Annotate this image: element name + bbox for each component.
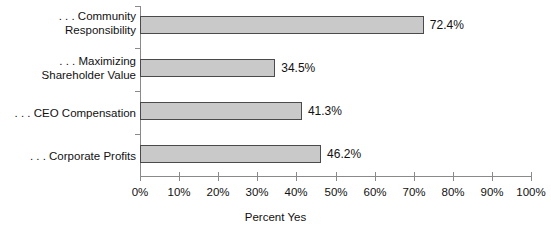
bar-chart: . . . Community Responsibility . . . Max… (0, 0, 551, 233)
y-axis-tick (135, 6, 141, 7)
category-label-community-responsibility: . . . Community Responsibility (0, 10, 136, 37)
x-axis-tick (414, 172, 415, 181)
x-axis-label-0: 0% (118, 186, 162, 198)
bar-value-corporate-profits: 46.2% (327, 145, 361, 163)
x-axis-label-40: 40% (274, 186, 318, 198)
x-axis-label-90: 90% (470, 186, 514, 198)
y-axis-tick (135, 48, 141, 49)
x-axis-tick (257, 172, 258, 181)
bar-value-ceo-compensation: 41.3% (308, 102, 342, 120)
x-axis-tick (336, 172, 337, 181)
x-axis-tick (453, 172, 454, 181)
x-axis-label-30: 30% (235, 186, 279, 198)
y-axis-tick (135, 134, 141, 135)
x-axis-tick (492, 172, 493, 181)
bar-maximizing-shareholder-value (140, 59, 275, 77)
x-axis-tick (140, 172, 141, 181)
x-axis-tick (296, 172, 297, 181)
category-axis-labels: . . . Community Responsibility . . . Max… (0, 0, 136, 176)
bar-value-community-responsibility: 72.4% (430, 16, 464, 34)
x-axis-label-10: 10% (157, 186, 201, 198)
x-axis-label-100: 100% (509, 186, 551, 198)
y-axis-tick (135, 91, 141, 92)
plot-area: 72.4% 34.5% 41.3% 46.2% 0% 10% 20% 30% 4… (140, 6, 532, 176)
x-axis-tick (218, 172, 219, 181)
x-axis-label-70: 70% (392, 186, 436, 198)
x-axis-tick (179, 172, 180, 181)
category-label-corporate-profits: . . . Corporate Profits (0, 150, 136, 164)
x-axis-label-60: 60% (353, 186, 397, 198)
category-label-ceo-compensation: . . . CEO Compensation (0, 107, 136, 121)
x-axis-label-80: 80% (431, 186, 475, 198)
bar-value-maximizing-shareholder-value: 34.5% (281, 59, 315, 77)
bar-ceo-compensation (140, 102, 302, 120)
x-axis-label-50: 50% (314, 186, 358, 198)
bar-community-responsibility (140, 16, 424, 34)
x-axis-tick (375, 172, 376, 181)
bar-corporate-profits (140, 145, 321, 163)
x-axis-title: Percent Yes (0, 211, 551, 223)
x-axis-label-20: 20% (196, 186, 240, 198)
category-label-maximizing-shareholder-value: . . . Maximizing Shareholder Value (0, 55, 136, 82)
x-axis-tick (531, 172, 532, 181)
